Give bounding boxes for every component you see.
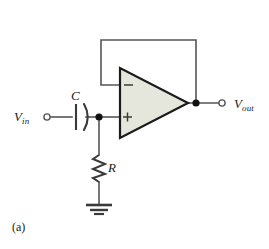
- label-vin-main: V: [14, 109, 22, 124]
- resistor-r-zigzag: [93, 155, 105, 182]
- ground-symbol: [86, 205, 112, 214]
- circuit-schematic-svg: [0, 0, 269, 249]
- label-capacitor-c: C: [71, 89, 80, 102]
- label-resistor-r: R: [108, 161, 116, 174]
- terminal-circle-vin: [44, 114, 50, 120]
- label-vin: Vin: [14, 110, 29, 123]
- label-vout-subscript: out: [242, 103, 254, 113]
- figure-caption: (a): [12, 221, 25, 233]
- terminal-circle-vout: [219, 100, 225, 106]
- node-dot-rc-junction: [95, 113, 102, 120]
- node-dot-output-junction: [192, 99, 199, 106]
- opamp-triangle: [120, 68, 188, 138]
- label-vout-main: V: [234, 96, 242, 111]
- circuit-figure: Vin Vout C R (a): [0, 0, 269, 249]
- label-vin-subscript: in: [22, 116, 29, 126]
- label-vout: Vout: [234, 97, 254, 110]
